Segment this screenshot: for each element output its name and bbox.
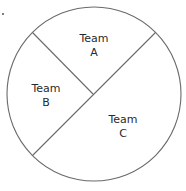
slice-label-team-b-line2: B — [42, 96, 50, 109]
slice-label-team-a-line2: A — [90, 46, 98, 59]
slice-label-team-b-line1: Team — [30, 82, 60, 95]
slice-label-team-a-line1: Team — [78, 32, 108, 45]
slice-label-team-c-line2: C — [119, 127, 127, 140]
pie-chart: Team A Team B Team C — [0, 0, 186, 191]
stray-dot — [2, 13, 4, 15]
slice-label-team-c-line1: Team — [107, 113, 137, 126]
